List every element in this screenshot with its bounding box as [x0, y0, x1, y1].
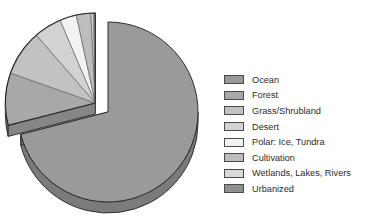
legend-item-label: Wetlands, Lakes, Rivers — [252, 168, 351, 178]
legend-item-label: Polar: Ice, Tundra — [252, 137, 325, 147]
legend-item[interactable]: Desert — [224, 119, 371, 135]
legend-item[interactable]: Forest — [224, 88, 371, 104]
legend-item[interactable]: Ocean — [224, 72, 371, 88]
legend-swatch — [224, 153, 244, 162]
legend-swatch — [224, 106, 244, 115]
legend-swatch — [224, 184, 244, 193]
legend-item-label: Desert — [252, 122, 279, 132]
legend-item-label: Forest — [252, 90, 278, 100]
legend-item-label: Cultivation — [252, 153, 295, 163]
legend-item[interactable]: Polar: Ice, Tundra — [224, 134, 371, 150]
legend-item[interactable]: Cultivation — [224, 150, 371, 166]
pie-chart-canvas — [0, 0, 220, 216]
legend-item[interactable]: Wetlands, Lakes, Rivers — [224, 166, 371, 182]
legend-swatch — [224, 138, 244, 147]
legend-swatch — [224, 91, 244, 100]
legend-swatch — [224, 75, 244, 84]
legend-item[interactable]: Grass/Shrubland — [224, 103, 371, 119]
legend-item-label: Urbanized — [252, 184, 294, 194]
pie-chart-figure: OceanForestGrass/ShrublandDesertPolar: I… — [0, 0, 371, 216]
legend-item-label: Grass/Shrubland — [252, 106, 321, 116]
legend-item[interactable]: Urbanized — [224, 181, 371, 197]
legend-item-label: Ocean — [252, 75, 279, 85]
pie-exploded-land-group — [5, 13, 95, 136]
legend-swatch — [224, 169, 244, 178]
legend-swatch — [224, 122, 244, 131]
chart-legend: OceanForestGrass/ShrublandDesertPolar: I… — [224, 72, 371, 197]
